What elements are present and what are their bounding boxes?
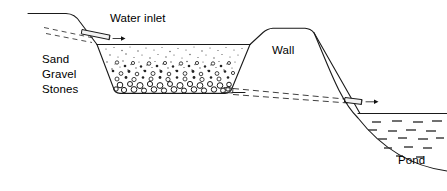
inlet-arrow-icon bbox=[113, 36, 126, 40]
label-wall: Wall bbox=[272, 42, 294, 59]
seepage-dashed-lower-a bbox=[233, 89, 350, 100]
embankment-wall-outline bbox=[250, 28, 360, 113]
seepage-dashed-lower-b bbox=[233, 95, 348, 104]
label-media-stack: Sand Gravel Stones bbox=[42, 52, 78, 97]
filter-media-gravel bbox=[112, 61, 235, 82]
inlet-pipe bbox=[81, 30, 110, 40]
label-media-stones: Stones bbox=[42, 82, 78, 97]
filter-media-stones bbox=[114, 81, 232, 93]
label-media-sand: Sand bbox=[42, 52, 78, 67]
outlet-arrow-icon bbox=[366, 100, 379, 104]
filter-bed-diagram: Water inlet Wall Pond Sand Gravel Stones bbox=[0, 0, 447, 191]
label-pond: Pond bbox=[398, 152, 425, 169]
label-media-gravel: Gravel bbox=[42, 67, 78, 82]
filter-media-sand bbox=[105, 47, 242, 72]
label-water-inlet: Water inlet bbox=[110, 10, 166, 27]
ground-line-left bbox=[28, 14, 97, 45]
